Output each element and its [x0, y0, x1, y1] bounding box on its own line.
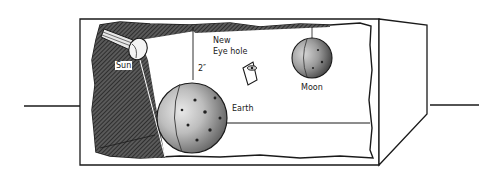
moon-sphere	[292, 38, 332, 78]
eye-hole-label-line1: New	[213, 36, 230, 45]
box-side	[379, 19, 427, 165]
box-model-illustration	[0, 0, 479, 174]
moon-label: Moon	[301, 83, 323, 92]
eye-hole-label-line2: Eye hole	[213, 47, 247, 56]
sun-label: Sun	[115, 61, 132, 70]
earth-sphere	[157, 83, 227, 153]
diagram-canvas: Sun New Eye hole 2″ Earth Moon	[0, 0, 479, 174]
earth-label: Earth	[232, 104, 253, 113]
distance-label: 2″	[198, 64, 206, 73]
